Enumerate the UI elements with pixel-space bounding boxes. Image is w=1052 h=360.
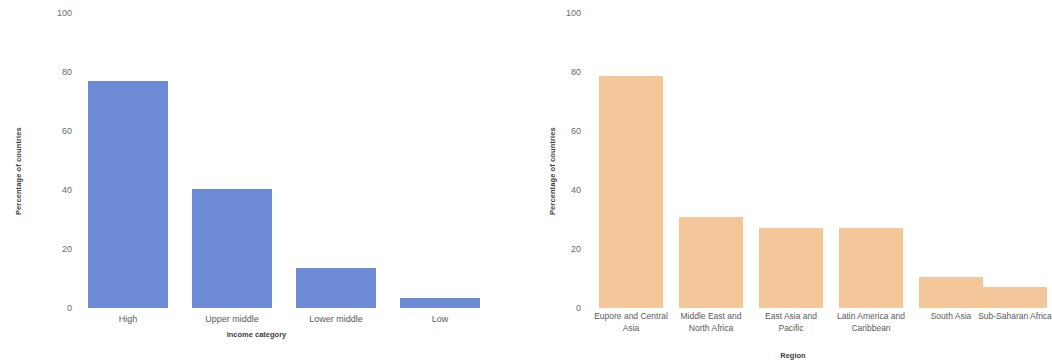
bar[interactable] xyxy=(759,228,823,308)
x-tick-label: Latin America and Caribbean xyxy=(834,311,908,334)
bar[interactable] xyxy=(839,228,903,308)
x-tick-label: Eupore and Central Asia xyxy=(594,311,668,334)
x-tick-label: Upper middle xyxy=(184,314,280,326)
left-chart-panel: Percentage of countries 100806040200 Hig… xyxy=(0,0,513,360)
x-tick-label: Low xyxy=(392,314,488,326)
bar[interactable] xyxy=(599,76,663,308)
x-tick-label: Sub-Saharan Africa xyxy=(978,311,1052,323)
x-tick-label: High xyxy=(80,314,176,326)
x-tick-label: Middle East and North Africa xyxy=(674,311,748,334)
right-plot-area xyxy=(513,0,1026,360)
bar[interactable] xyxy=(88,81,168,308)
bar[interactable] xyxy=(919,277,983,308)
right-chart-panel: Percentage of countries 100806040200 Eup… xyxy=(513,0,1026,360)
left-plot-area xyxy=(0,0,513,360)
bar[interactable] xyxy=(400,298,480,308)
x-tick-label: Lower middle xyxy=(288,314,384,326)
left-x-axis-title: Income category xyxy=(0,330,513,339)
bar[interactable] xyxy=(192,189,272,308)
bar[interactable] xyxy=(983,287,1047,308)
x-tick-label: East Asia and Pacific xyxy=(754,311,828,334)
right-x-axis-title: Region xyxy=(693,351,893,360)
bar[interactable] xyxy=(296,268,376,308)
x-tick-label: South Asia xyxy=(914,311,988,323)
bar[interactable] xyxy=(679,217,743,308)
